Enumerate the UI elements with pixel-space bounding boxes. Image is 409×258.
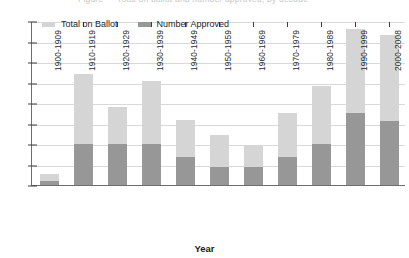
bar-segment-number-approved[interactable] [210, 167, 229, 185]
bar-segment-number-approved[interactable] [346, 113, 365, 185]
x-axis-title: Year [0, 243, 409, 254]
plot-area: 4003503002502001501005001900-19091910-19… [31, 22, 405, 186]
y-axis-tick-mark [28, 186, 37, 187]
x-axis-tick-mark [389, 22, 390, 27]
x-axis-tick-mark [287, 22, 288, 27]
legend-label: Total on Ballot [61, 19, 118, 29]
x-axis-tick-mark [355, 22, 356, 27]
y-axis-tick-mark [28, 145, 37, 146]
x-axis-tick-label: 1900-1909 [53, 30, 63, 71]
bar-segment-number-approved[interactable] [380, 121, 399, 185]
legend-swatch-icon [138, 22, 151, 27]
bar-segment-number-approved[interactable] [176, 157, 195, 185]
bar-segment-number-approved[interactable] [40, 181, 59, 185]
bar-segment-number-approved[interactable] [312, 144, 331, 185]
x-axis-tick-label: 1970-1979 [291, 30, 301, 71]
x-axis-tick-label: 1950-1959 [223, 30, 233, 71]
x-axis-tick-label: 1910-1919 [87, 30, 97, 71]
x-axis-tick-label: 2000-2008 [393, 30, 403, 71]
bar-segment-number-approved[interactable] [244, 167, 263, 185]
bar-segment-number-approved[interactable] [74, 144, 93, 185]
chart-title-cropped: Figure — Total on ballot and number appr… [0, 0, 409, 7]
y-axis-tick-mark [28, 83, 37, 84]
bar-chart: Figure — Total on ballot and number appr… [0, 0, 409, 258]
y-axis-tick-mark [28, 42, 37, 43]
x-axis-tick-label: 1930-1939 [155, 30, 165, 71]
x-axis-tick-label: 1920-1929 [121, 30, 131, 71]
y-axis-tick-mark [28, 63, 37, 64]
legend-label: Number Approved [157, 19, 230, 29]
y-axis-tick-mark [28, 124, 37, 125]
y-axis-tick-mark [28, 165, 37, 166]
x-axis-tick-label: 1980-1989 [325, 30, 335, 71]
legend-item[interactable]: Number Approved [138, 19, 230, 29]
bar-segment-number-approved[interactable] [142, 144, 161, 185]
y-axis-tick-mark [28, 104, 37, 105]
chart-title-text: Figure — Total on ballot and number appr… [78, 0, 308, 4]
x-axis-tick-label: 1940-1949 [189, 30, 199, 71]
bar-segment-number-approved[interactable] [108, 144, 127, 185]
chart-legend: Total on BallotNumber Approved [42, 19, 229, 29]
x-axis-tick-mark [253, 22, 254, 27]
y-axis-tick-mark [28, 22, 37, 23]
bar-segment-number-approved[interactable] [278, 157, 297, 185]
x-axis-tick-mark [321, 22, 322, 27]
legend-item[interactable]: Total on Ballot [42, 19, 118, 29]
x-axis-tick-label: 1960-1969 [257, 30, 267, 71]
legend-swatch-icon [42, 22, 55, 27]
x-axis-tick-label: 1990-1999 [359, 30, 369, 71]
